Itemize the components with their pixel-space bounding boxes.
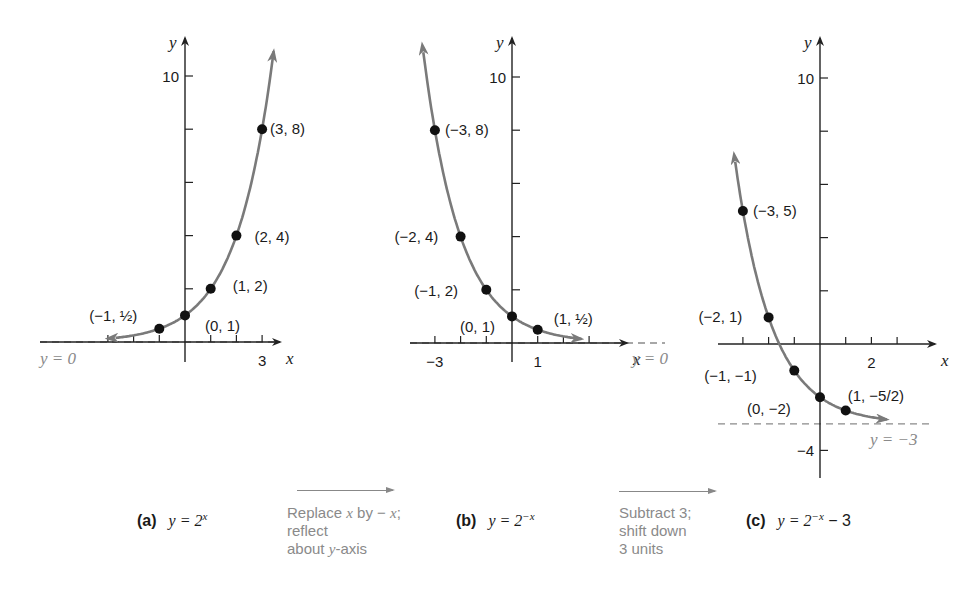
x-tick-label: −3 xyxy=(426,353,443,370)
asymptote-label: y = 0 xyxy=(630,349,669,368)
caption-a-equation: y = 2 xyxy=(169,512,203,529)
point-label: (1, ½) xyxy=(554,310,593,327)
caption-b-exponent: −x xyxy=(522,510,534,522)
transform-2-line2: shift down xyxy=(619,522,692,540)
point-label: (−1, ½) xyxy=(89,307,137,324)
caption-b-equation: y = 2 xyxy=(488,512,522,529)
y-axis-label: y xyxy=(494,33,504,52)
y-tick-label: 10 xyxy=(489,69,506,86)
data-point xyxy=(533,325,543,335)
point-label: (3, 8) xyxy=(270,120,305,137)
point-label: (0, 1) xyxy=(205,317,240,334)
data-point xyxy=(154,324,164,334)
data-point xyxy=(180,310,190,320)
point-label: (−2, 1) xyxy=(699,308,743,325)
data-point xyxy=(507,311,517,321)
caption-c-suffix: − 3 xyxy=(824,512,851,529)
data-point xyxy=(815,392,825,402)
x-axis-label: x xyxy=(940,351,949,370)
data-point xyxy=(841,406,851,416)
point-label: (−1, −1) xyxy=(704,367,757,384)
asymptote-label: y = −3 xyxy=(868,430,918,449)
data-point xyxy=(764,312,774,322)
asymptote-label: y = 0 xyxy=(38,349,77,368)
y-axis-label: y xyxy=(167,33,177,52)
transform-arrow-icon xyxy=(297,490,393,491)
transform-1-text-mid: by − xyxy=(353,504,390,521)
data-point xyxy=(257,124,267,134)
caption-c: (c)y = 2−x − 3 xyxy=(746,510,851,530)
point-label: (−2, 4) xyxy=(395,228,439,245)
function-curve xyxy=(735,162,887,420)
data-point xyxy=(738,206,748,216)
caption-c-equation: y = 2 xyxy=(778,512,812,529)
caption-a-label: (a) xyxy=(137,512,157,529)
transform-1-var: x xyxy=(346,505,353,521)
point-label: (2, 4) xyxy=(254,228,289,245)
transform-1-line3-pre: about xyxy=(287,540,329,557)
caption-a: (a)y = 2x xyxy=(137,510,207,530)
caption-b: (b)y = 2−x xyxy=(456,510,535,530)
x-axis-label: x xyxy=(285,349,294,368)
data-point xyxy=(231,231,241,241)
transform-2-line3: 3 units xyxy=(619,540,692,558)
caption-b-label: (b) xyxy=(456,512,476,529)
point-label: (1, −5/2) xyxy=(848,387,904,404)
transform-shift-text: Subtract 3; shift down 3 units xyxy=(619,504,692,558)
transform-arrow-icon xyxy=(619,491,715,492)
x-tick-label: 1 xyxy=(534,353,542,370)
panel-b-graph: −3110xyy = 0(−3, 8)(−2, 4)(−1, 2)(0, 1)(… xyxy=(395,33,669,370)
caption-a-exponent: x xyxy=(202,510,207,522)
transform-1-line3-post: -axis xyxy=(335,540,367,557)
point-label: (1, 2) xyxy=(233,277,268,294)
point-label: (−1, 2) xyxy=(414,282,458,299)
caption-c-label: (c) xyxy=(746,512,766,529)
data-point xyxy=(789,366,799,376)
caption-c-exponent: −x xyxy=(811,510,823,522)
y-tick-label: 10 xyxy=(797,70,814,87)
x-tick-label: 3 xyxy=(258,352,266,369)
x-tick-label: 2 xyxy=(867,354,875,371)
transform-1-line2: reflect xyxy=(287,522,401,540)
data-point xyxy=(430,125,440,135)
data-point xyxy=(481,285,491,295)
transform-1-text-post: ; xyxy=(397,504,401,521)
transform-1-text-pre: Replace xyxy=(287,504,346,521)
panel-c-graph: 210−4xyy = −3(−3, 5)(−2, 1)(−1, −1)(0, −… xyxy=(699,33,949,478)
transform-2-line1: Subtract 3; xyxy=(619,504,692,522)
data-point xyxy=(456,232,466,242)
point-label: (−3, 5) xyxy=(753,202,797,219)
y-tick-label: 10 xyxy=(162,68,179,85)
point-label: (0, −2) xyxy=(747,400,791,417)
transform-1-var2: x xyxy=(390,505,397,521)
point-label: (0, 1) xyxy=(460,318,495,335)
panel-a-graph: 310xyy = 0(−1, ½)(0, 1)(1, 2)(2, 4)(3, 8… xyxy=(38,33,305,369)
y-axis-label: y xyxy=(802,33,812,52)
data-point xyxy=(206,284,216,294)
transform-reflect-text: Replace x by − x; reflect about y-axis xyxy=(287,504,401,558)
point-label: (−3, 8) xyxy=(445,121,489,138)
function-curve xyxy=(116,51,274,338)
y-tick-label: −4 xyxy=(797,442,814,459)
